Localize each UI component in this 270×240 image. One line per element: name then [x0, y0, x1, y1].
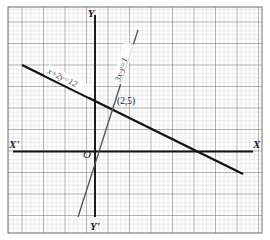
coordinate-plane-svg: x+2y=12 3x-y=1 X' X Y Y' O (2,5)	[0, 0, 270, 240]
graph-figure: x+2y=12 3x-y=1 X' X Y Y' O (2,5)	[0, 0, 270, 240]
y-negative-axis-label: Y'	[90, 220, 100, 232]
origin-label: O	[83, 148, 91, 160]
x-negative-axis-label: X'	[8, 138, 19, 150]
x-positive-axis-label: X	[252, 138, 261, 150]
intersection-point-label: (2,5)	[117, 96, 135, 107]
